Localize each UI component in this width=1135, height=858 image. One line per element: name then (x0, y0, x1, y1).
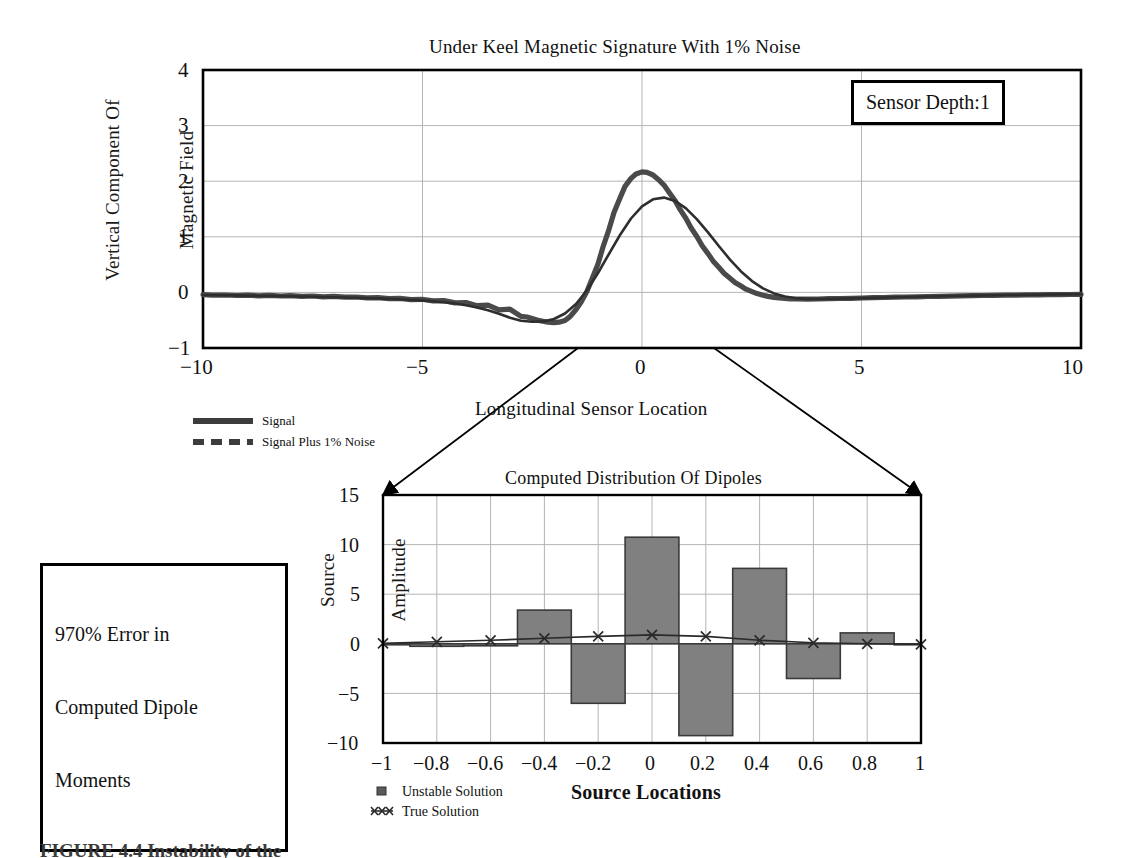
bottom-chart-xtick: −1 (371, 752, 392, 775)
top-chart-title: Under Keel Magnetic Signature With 1% No… (429, 36, 801, 58)
bottom-chart-ytick: 0 (350, 633, 360, 656)
bottom-chart-y-axis-title-line1: Source (316, 490, 340, 670)
top-chart-xtick: 5 (854, 355, 865, 380)
bottom-chart-xtick: −0.8 (413, 752, 449, 775)
bottom-chart-ytick: 5 (350, 583, 360, 606)
bottom-chart-xtick: 0.4 (744, 752, 769, 775)
bottom-chart-ytick: 15 (339, 484, 359, 507)
bottom-chart-title: Computed Distribution Of Dipoles (505, 468, 762, 489)
legend-bar-swatch (377, 787, 386, 795)
bottom-chart-x-axis-title: Source Locations (571, 781, 721, 804)
bottom-chart-xtick: 0.6 (798, 752, 823, 775)
bottom-chart-xtick: 0.2 (690, 752, 715, 775)
bottom-chart-ytick: −5 (338, 683, 359, 706)
bottom-chart-xtick: 0 (645, 752, 655, 775)
bottom-chart-y-axis-title: Source Amplitude (268, 490, 458, 670)
sensor-depth-annotation-box: Sensor Depth:1 (851, 80, 1005, 125)
bar-item (464, 644, 518, 646)
top-chart-legend-marks (193, 421, 253, 442)
bottom-chart-legend-marks (371, 787, 393, 815)
bottom-chart-xtick: −0.6 (467, 752, 503, 775)
bottom-chart-legend-label-true: True Solution (402, 804, 479, 820)
legend-xline-swatch (371, 807, 393, 815)
error-annotation-line2: Computed Dipole (55, 695, 273, 719)
top-chart-xtick: −5 (406, 355, 428, 380)
bar-item (840, 633, 894, 644)
top-chart-ytick: 2 (178, 169, 189, 194)
bottom-chart-legend-label-unstable: Unstable Solution (402, 784, 503, 800)
top-chart-legend-label-noise: Signal Plus 1% Noise (262, 434, 375, 450)
top-chart-xtick: −10 (180, 355, 213, 380)
bottom-chart-y-axis-title-line2: Amplitude (387, 490, 411, 670)
bar-item (787, 644, 841, 679)
bottom-chart-ytick: 10 (339, 534, 359, 557)
bar-item (679, 644, 733, 736)
bottom-chart-plot (378, 495, 926, 743)
top-chart-y-axis-title: Vertical Component Of Magnetic Field (52, 50, 250, 330)
bar-item (625, 537, 679, 644)
error-annotation-box: 970% Error in Computed Dipole Moments (40, 563, 288, 852)
top-chart-ytick: 0 (178, 280, 189, 305)
top-chart-y-axis-title-line1: Vertical Component Of (101, 50, 126, 330)
top-chart-xtick: 0 (635, 355, 646, 380)
top-chart-x-axis-title: Longitudinal Sensor Location (475, 398, 708, 420)
bottom-chart-xtick: −0.4 (521, 752, 557, 775)
bar-item (733, 568, 787, 643)
top-chart-ytick: 1 (178, 224, 189, 249)
bar-item (571, 644, 625, 704)
figure-root: Under Keel Magnetic Signature With 1% No… (0, 0, 1135, 858)
error-annotation-line1: 970% Error in (55, 622, 273, 646)
bottom-chart-xtick: 0.8 (852, 752, 877, 775)
top-chart-legend-label-signal: Signal (262, 413, 295, 429)
bottom-chart-xtick: 1 (915, 752, 925, 775)
top-chart-xtick: 10 (1062, 355, 1083, 380)
figure-caption: FIGURE 4.4 Instability of the (40, 840, 1100, 858)
bottom-chart-ytick: −10 (327, 732, 358, 755)
top-chart-ytick: 3 (178, 113, 189, 138)
bottom-chart-xtick: −0.2 (575, 752, 611, 775)
top-chart-ytick: 4 (178, 58, 189, 83)
error-annotation-line3: Moments (55, 768, 273, 792)
